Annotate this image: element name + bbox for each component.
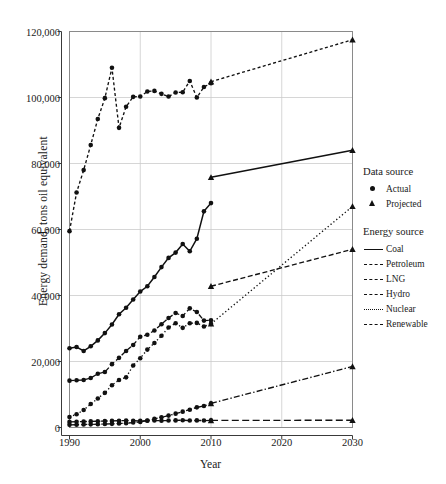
data-point-actual	[152, 328, 157, 333]
data-point-actual	[67, 378, 72, 383]
x-tick-label: 2020	[252, 437, 312, 448]
data-point-actual	[96, 117, 101, 122]
data-point-actual	[88, 402, 93, 407]
data-point-actual	[117, 126, 122, 131]
data-point-actual	[131, 95, 136, 100]
data-point-actual	[159, 322, 164, 327]
data-point-actual	[131, 420, 136, 425]
legend-item-actual[interactable]: Actual	[363, 182, 446, 197]
data-point-actual	[187, 418, 192, 423]
data-point-actual	[74, 345, 79, 350]
data-point-actual	[152, 275, 157, 280]
legend-title-energy-source: Energy source	[363, 226, 446, 237]
chart-figure: Energy demand, tons oil equivalent 020,0…	[0, 0, 446, 484]
data-point-actual	[110, 383, 115, 388]
data-point-actual	[138, 356, 143, 361]
circle-marker-icon	[363, 182, 385, 197]
data-point-actual	[187, 79, 192, 84]
legend-item-coal[interactable]: Coal	[363, 242, 446, 257]
data-point-actual	[96, 338, 101, 343]
line-style-dashed-medium-icon	[363, 272, 385, 287]
x-axis-title: Year	[68, 458, 353, 470]
data-point-actual	[74, 190, 79, 195]
data-point-actual	[195, 310, 200, 315]
data-point-projected	[349, 37, 355, 43]
data-point-actual	[166, 413, 171, 418]
data-point-actual	[173, 311, 178, 316]
data-point-actual	[166, 94, 171, 99]
legend-item-hydro[interactable]: Hydro	[363, 287, 446, 302]
data-point-actual	[180, 314, 185, 319]
data-point-actual	[195, 321, 200, 326]
data-point-actual	[145, 332, 150, 337]
legend-item-lng[interactable]: LNG	[363, 272, 446, 287]
series-renewable	[67, 363, 356, 427]
legend-item-label: Petroleum	[385, 260, 425, 270]
data-point-actual	[202, 318, 207, 323]
data-point-actual	[88, 143, 93, 148]
data-point-actual	[166, 316, 171, 321]
data-point-actual	[180, 242, 185, 247]
chart-legend: Data source ActualProjected Energy sourc…	[363, 166, 446, 332]
legend-item-petroleum[interactable]: Petroleum	[363, 257, 446, 272]
data-point-actual	[110, 362, 115, 367]
axis-spines	[58, 32, 353, 440]
data-point-actual	[152, 417, 157, 422]
data-point-actual	[81, 378, 86, 383]
data-point-actual	[173, 418, 178, 423]
legend-item-label: Hydro	[385, 290, 410, 300]
data-point-actual	[152, 341, 157, 346]
data-point-actual	[173, 250, 178, 255]
data-point-actual	[74, 378, 79, 383]
data-point-actual	[187, 407, 192, 412]
data-point-actual	[67, 415, 72, 420]
data-point-actual	[88, 422, 93, 427]
legend-item-nuclear[interactable]: Nuclear	[363, 302, 446, 317]
data-point-actual	[103, 331, 108, 336]
data-point-actual	[67, 423, 72, 428]
data-point-actual	[180, 326, 185, 331]
data-point-actual	[96, 396, 101, 401]
data-point-actual	[145, 418, 150, 423]
data-point-actual	[195, 418, 200, 423]
x-tick-label: 2030	[323, 437, 383, 448]
legend-item-renewable[interactable]: Renewable	[363, 317, 446, 332]
data-point-actual	[110, 422, 115, 427]
data-point-actual	[131, 363, 136, 368]
data-point-actual	[131, 297, 136, 302]
data-point-actual	[187, 249, 192, 254]
line-style-dashed-icon	[363, 257, 385, 272]
legend-item-label: Actual	[385, 185, 411, 195]
data-point-actual	[124, 104, 129, 109]
data-point-actual	[138, 94, 143, 99]
data-point-actual	[110, 66, 115, 71]
legend-item-projected[interactable]: Projected	[363, 197, 446, 212]
series-nuclear	[67, 203, 356, 419]
data-point-actual	[159, 265, 164, 270]
data-point-actual	[124, 421, 129, 426]
data-point-actual	[209, 201, 214, 206]
data-point-actual	[117, 378, 122, 383]
data-point-actual	[88, 376, 93, 381]
data-point-actual	[117, 421, 122, 426]
line-style-dashed-long-icon	[363, 287, 385, 302]
data-point-actual	[195, 95, 200, 100]
data-point-actual	[145, 89, 150, 94]
legend-title-data-source: Data source	[363, 166, 446, 177]
x-tick-label: 2000	[110, 437, 170, 448]
data-point-actual	[117, 356, 122, 361]
data-point-actual	[103, 391, 108, 396]
data-point-actual	[88, 344, 93, 349]
data-point-actual	[81, 168, 86, 173]
data-point-actual	[166, 418, 171, 423]
data-point-actual	[166, 325, 171, 330]
data-point-actual	[74, 412, 79, 417]
data-point-actual	[187, 306, 192, 311]
data-point-projected	[349, 203, 355, 209]
data-point-actual	[202, 418, 207, 423]
data-point-actual	[138, 289, 143, 294]
data-point-actual	[131, 343, 136, 348]
data-point-actual	[124, 349, 129, 354]
data-point-actual	[145, 347, 150, 352]
data-point-actual	[81, 408, 86, 413]
